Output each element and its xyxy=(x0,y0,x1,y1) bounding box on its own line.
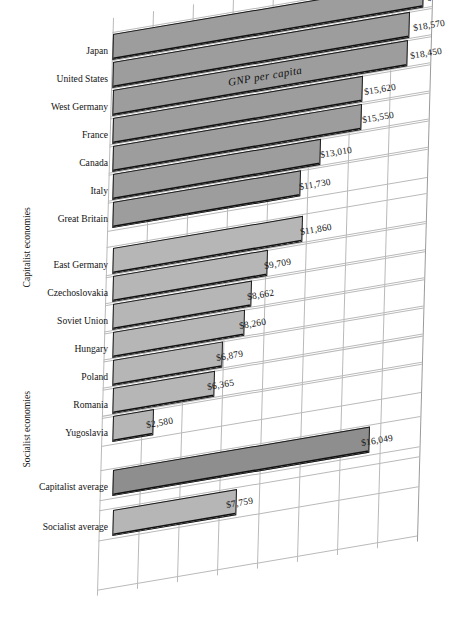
bar-series xyxy=(113,18,433,593)
value-label: $19,410 xyxy=(426,0,449,3)
axis-group-title-capitalist: Capitalist economies xyxy=(21,180,32,288)
plot-area xyxy=(113,18,433,593)
category-label-socialist-average: Socialist average xyxy=(4,521,108,532)
category-label-czechoslovakia: Czechoslovakia xyxy=(4,287,108,298)
category-label-united-states: United States xyxy=(4,73,108,84)
category-label-canada: Canada xyxy=(4,157,108,168)
bar-socialist-average[interactable] xyxy=(112,489,237,536)
bar-row xyxy=(113,510,433,536)
bar-row xyxy=(113,388,433,414)
axis-group-title-socialist: Socialist economies xyxy=(21,360,32,468)
bar-row xyxy=(113,470,433,496)
category-label-capitalist-average: Capitalist average xyxy=(4,481,108,492)
category-label-france: France xyxy=(4,129,108,140)
category-label-west-germany: West Germany xyxy=(4,101,108,112)
category-label-soviet-union: Soviet Union xyxy=(4,315,108,326)
category-label-japan: Japan xyxy=(4,45,108,56)
category-label-hungary: Hungary xyxy=(4,343,108,354)
category-label-column: JapanUnited StatesWest GermanyFranceCana… xyxy=(0,0,108,626)
